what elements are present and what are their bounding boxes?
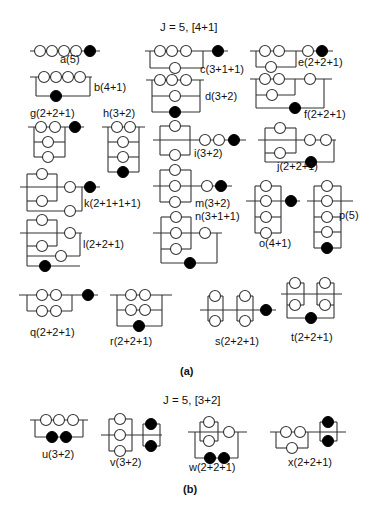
circuit-label: c(3+1+1) xyxy=(200,63,244,75)
filled-node-icon xyxy=(216,181,227,192)
open-node-icon xyxy=(63,72,74,83)
circuit-d: d(3+2) xyxy=(146,75,237,118)
circuit-label: p(5) xyxy=(339,209,359,221)
open-node-icon xyxy=(37,290,48,301)
circuit-h: h(3+2) xyxy=(102,107,145,178)
circuit-v: v(3+2) xyxy=(101,414,162,469)
open-node-icon xyxy=(320,278,331,289)
open-node-icon xyxy=(204,436,215,447)
open-node-icon xyxy=(170,197,181,208)
open-node-icon xyxy=(36,122,47,133)
circuit-label: q(2+2+1) xyxy=(30,326,75,338)
circuit-f: f(2+2+1) xyxy=(250,74,346,121)
open-node-icon xyxy=(261,196,272,207)
open-node-icon xyxy=(171,244,182,255)
circuit-u: u(3+2) xyxy=(30,415,88,461)
circuit-w: w(2+2+1) xyxy=(188,417,247,474)
open-node-icon xyxy=(65,228,76,239)
open-node-icon xyxy=(39,72,50,83)
open-node-icon xyxy=(322,212,333,223)
filled-node-icon xyxy=(323,436,334,447)
open-node-icon xyxy=(321,135,332,146)
open-node-icon xyxy=(170,121,181,132)
circuit-label: w(2+2+1) xyxy=(188,461,235,473)
filled-node-icon xyxy=(170,107,181,118)
open-node-icon xyxy=(171,228,182,239)
circuit-m: m(3+2) xyxy=(153,165,232,210)
open-node-icon xyxy=(118,152,129,163)
circuit-x: x(2+2+1) xyxy=(270,417,346,469)
circuit-label: d(3+2) xyxy=(205,90,237,102)
filled-node-icon xyxy=(118,167,129,178)
filled-node-icon xyxy=(317,46,328,57)
open-node-icon xyxy=(275,123,286,134)
open-node-icon xyxy=(200,228,211,239)
filled-node-icon xyxy=(261,305,272,316)
open-node-icon xyxy=(56,251,67,262)
open-node-icon xyxy=(155,75,166,86)
open-node-icon xyxy=(115,430,126,441)
circuit-a: a(5) xyxy=(30,46,100,66)
open-node-icon xyxy=(266,62,277,73)
circuit-label: g(2+2+1) xyxy=(30,107,75,119)
open-node-icon xyxy=(115,414,126,425)
open-node-icon xyxy=(167,46,178,57)
filled-node-icon xyxy=(70,122,81,133)
filled-node-icon xyxy=(185,258,196,269)
open-node-icon xyxy=(274,46,285,57)
panel-b-diagrams: u(3+2)v(3+2)w(2+2+1)x(2+2+1) xyxy=(30,414,346,474)
open-node-icon xyxy=(322,227,333,238)
circuit-label: k(2+1+1+1) xyxy=(84,197,141,209)
open-node-icon xyxy=(275,148,286,159)
circuit-label: v(3+2) xyxy=(110,456,142,468)
open-node-icon xyxy=(170,91,181,102)
circuit-p: p(5) xyxy=(307,181,359,254)
filled-node-icon xyxy=(286,196,297,207)
open-node-icon xyxy=(181,75,192,86)
filled-node-icon xyxy=(146,419,157,430)
open-node-icon xyxy=(322,181,333,192)
filled-node-icon xyxy=(323,417,334,428)
open-node-icon xyxy=(140,290,151,301)
open-node-icon xyxy=(37,169,48,180)
open-node-icon xyxy=(170,150,181,161)
open-node-icon xyxy=(210,316,221,327)
filled-node-icon xyxy=(85,182,96,193)
open-node-icon xyxy=(204,417,215,428)
open-node-icon xyxy=(267,90,278,101)
circuit-label: e(2+2+1) xyxy=(298,56,343,68)
open-node-icon xyxy=(170,181,181,192)
circuit-e: e(2+2+1) xyxy=(250,46,343,73)
open-node-icon xyxy=(181,46,192,57)
circuit-label: a(5) xyxy=(60,53,80,65)
open-node-icon xyxy=(240,316,251,327)
circuit-i: i(3+2) xyxy=(153,121,246,161)
open-node-icon xyxy=(170,63,181,74)
circuit-b: b(4+1) xyxy=(30,72,126,102)
circuit-label: n(3+1+1) xyxy=(195,210,240,222)
open-node-icon xyxy=(290,300,301,311)
circuit-label: t(2+2+1) xyxy=(291,331,333,343)
open-node-icon xyxy=(202,181,213,192)
circuit-label: m(3+2) xyxy=(195,197,230,209)
circuit-label: l(2+2+1) xyxy=(83,238,124,250)
open-node-icon xyxy=(37,306,48,317)
open-node-icon xyxy=(214,135,225,146)
open-node-icon xyxy=(125,122,136,133)
open-node-icon xyxy=(200,135,211,146)
circuit-label: x(2+2+1) xyxy=(288,456,332,468)
filled-node-icon xyxy=(229,135,240,146)
circuit-j: j(2+2+1) xyxy=(258,123,336,173)
open-node-icon xyxy=(295,427,306,438)
open-node-icon xyxy=(240,291,251,302)
open-node-icon xyxy=(171,212,182,223)
open-node-icon xyxy=(37,241,48,252)
open-node-icon xyxy=(261,212,272,223)
open-node-icon xyxy=(47,46,58,57)
open-node-icon xyxy=(37,196,48,207)
circuit-l: l(2+2+1) xyxy=(20,215,124,272)
open-node-icon xyxy=(260,46,271,57)
open-node-icon xyxy=(155,46,166,57)
filled-node-icon xyxy=(134,321,145,332)
circuit-label: r(2+2+1) xyxy=(110,335,152,347)
